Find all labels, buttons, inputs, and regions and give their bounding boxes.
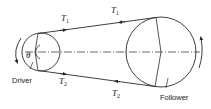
driver-rotation-arrow-icon bbox=[16, 38, 21, 62]
driver-label: Driver bbox=[12, 76, 33, 85]
belt-slack-side bbox=[38, 71, 155, 87]
belt-slack-arrow-2-icon bbox=[116, 81, 120, 82]
t2-label-right: T2 bbox=[112, 88, 120, 99]
t2-label-left: T2 bbox=[59, 76, 67, 87]
belt-drive-diagram: θ T1 T1 T2 T2 Driver Follower bbox=[0, 0, 211, 109]
t1-label-left: T1 bbox=[61, 13, 69, 24]
follower-rotation-arrow-icon bbox=[199, 38, 202, 68]
belt-tight-arrow-2-icon bbox=[120, 22, 125, 23]
theta-label: θ bbox=[26, 50, 31, 60]
follower-pulley bbox=[126, 17, 202, 88]
follower-radius-top bbox=[156, 18, 161, 53]
follower-label: Follower bbox=[160, 93, 189, 102]
belt-slack-arrow-1-icon bbox=[59, 73, 65, 74]
belt-tight-arrow-1-icon bbox=[59, 30, 65, 31]
follower-radius-bottom bbox=[155, 52, 161, 87]
t1-label-right: T1 bbox=[111, 5, 119, 16]
